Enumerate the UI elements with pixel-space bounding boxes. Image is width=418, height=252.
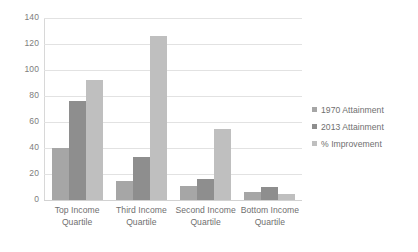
legend-swatch-icon bbox=[312, 141, 317, 146]
bar bbox=[261, 187, 278, 200]
x-category-label-line1: Top Income bbox=[55, 205, 100, 215]
x-category-label-line1: Third Income bbox=[116, 205, 167, 215]
x-category-label-line1: Bottom Income bbox=[241, 205, 299, 215]
legend-label: % Improvement bbox=[321, 139, 382, 149]
legend-swatch-icon bbox=[312, 124, 317, 129]
x-category-label-line2: Quartile bbox=[238, 217, 302, 229]
legend-item[interactable]: 2013 Attainment bbox=[312, 120, 412, 133]
y-tick-label: 0 bbox=[5, 195, 39, 204]
x-category-label: Top IncomeQuartile bbox=[45, 205, 109, 228]
y-tick-label: 140 bbox=[5, 13, 39, 22]
bar bbox=[150, 36, 167, 200]
bars bbox=[45, 18, 109, 200]
y-tick-label: 120 bbox=[5, 39, 39, 48]
bar-group bbox=[109, 18, 173, 200]
bar bbox=[244, 192, 261, 200]
gridline-0 bbox=[44, 200, 302, 201]
x-category-label-line2: Quartile bbox=[174, 217, 238, 229]
bar bbox=[197, 179, 214, 200]
bars bbox=[238, 18, 302, 200]
legend-label: 2013 Attainment bbox=[321, 122, 384, 132]
x-category-label: Third IncomeQuartile bbox=[109, 205, 173, 228]
bars bbox=[174, 18, 238, 200]
y-tick-label: 80 bbox=[5, 91, 39, 100]
y-tick-label: 100 bbox=[5, 65, 39, 74]
bar bbox=[52, 148, 69, 200]
x-category-label-line2: Quartile bbox=[109, 217, 173, 229]
bar-chart: 140120100806040200 Top IncomeQuartileThi… bbox=[0, 0, 418, 252]
bar-groups bbox=[45, 18, 302, 200]
bar bbox=[69, 101, 86, 200]
legend-item[interactable]: 1970 Attainment bbox=[312, 103, 412, 116]
x-category-label: Bottom IncomeQuartile bbox=[238, 205, 302, 228]
bar-group bbox=[45, 18, 109, 200]
bar bbox=[214, 129, 231, 201]
bar bbox=[180, 186, 197, 200]
chart-legend: 1970 Attainment2013 Attainment% Improvem… bbox=[312, 103, 412, 154]
bar bbox=[116, 181, 133, 201]
x-category-label-line2: Quartile bbox=[45, 217, 109, 229]
bar-group bbox=[174, 18, 238, 200]
legend-item[interactable]: % Improvement bbox=[312, 137, 412, 150]
bar bbox=[86, 80, 103, 200]
bar-group bbox=[238, 18, 302, 200]
y-tick-label: 40 bbox=[5, 143, 39, 152]
bar bbox=[278, 194, 295, 201]
x-category-label: Second IncomeQuartile bbox=[174, 205, 238, 228]
y-tick-label: 20 bbox=[5, 169, 39, 178]
bars bbox=[109, 18, 173, 200]
bar bbox=[133, 157, 150, 200]
x-category-label-line1: Second Income bbox=[175, 205, 235, 215]
x-axis-category-labels: Top IncomeQuartileThird IncomeQuartileSe… bbox=[45, 205, 302, 228]
y-tick-label: 60 bbox=[5, 117, 39, 126]
legend-label: 1970 Attainment bbox=[321, 105, 384, 115]
legend-swatch-icon bbox=[312, 107, 317, 112]
